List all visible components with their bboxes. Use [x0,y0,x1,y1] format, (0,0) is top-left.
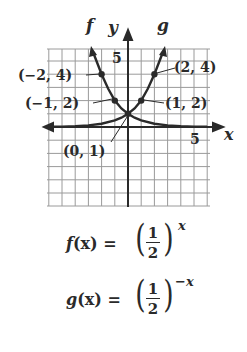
point-label-0-1: (0, 1) [63,144,105,158]
point-label-neg1-2: (−1, 2) [25,96,79,110]
equation-g-exponent: −x [175,274,194,289]
left-paren: ( [135,216,145,260]
point-label-neg2-4: (−2, 4) [18,68,72,82]
left-paren: ( [135,272,145,316]
equation-f-arg: (x) = [73,234,117,253]
equation-f-name: f [66,234,73,253]
point-label-1-2: (1, 2) [165,96,207,110]
fraction-bar [146,242,160,243]
point-2-4 [151,71,157,77]
point-label-2-4: (2, 4) [174,60,216,74]
equation-g-arg: (x) = [77,290,121,309]
x-axis-right-arrow-icon [213,123,223,131]
x-axis-label: x [224,127,234,143]
curve-f-arrow-icon [89,46,97,57]
curve-label-g: g [157,17,169,34]
point-1-2 [138,97,144,103]
numerator: 1 [146,224,160,241]
equation-g: g(x) = ( 1 2 ) −x [0,278,247,322]
exponential-graph-figure: f y g x 5 5 (−2, 4) (−1, 2) (0, 1) (1, 2… [0,0,247,352]
point-neg1-2 [112,97,118,103]
denominator: 2 [146,244,160,262]
equation-g-name: g [66,290,77,309]
right-paren: ) [163,216,173,260]
y-axis-arrow-icon [124,30,132,40]
point-0-1 [125,111,131,117]
fraction-bar [146,298,160,299]
curve-g-arrow-icon [159,46,167,57]
denominator: 2 [146,300,160,318]
y-tick-5: 5 [112,51,122,65]
numerator: 1 [146,280,160,297]
equation-f: f(x) = ( 1 2 ) x [0,222,247,266]
right-paren: ) [163,272,173,316]
axes [44,30,223,207]
fraction-one-half: 1 2 [146,224,160,262]
leader-lines [86,68,175,142]
y-axis-label: y [108,19,118,36]
equation-f-exponent: x [178,218,186,233]
x-tick-5: 5 [190,132,200,146]
curve-label-f: f [86,17,93,34]
curve-g [49,52,163,127]
fraction-one-half: 1 2 [146,280,160,318]
